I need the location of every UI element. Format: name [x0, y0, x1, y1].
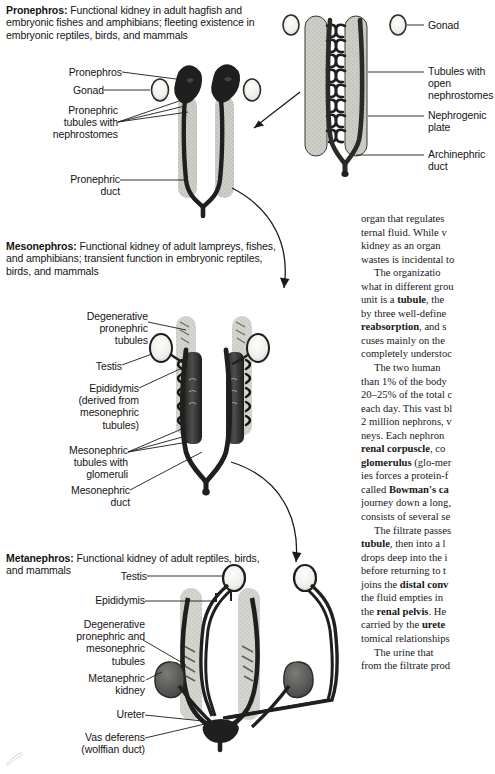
label-archinephric-duct: Archinephric duct [428, 148, 488, 172]
body-text-line: the fluid empties in [361, 591, 495, 605]
label-ureter: Ureter [95, 708, 145, 720]
body-text-lines: organ that regulatesternal fluid. While … [361, 212, 495, 673]
label-pronephric-tubules-with-nephrostomes: Pronephric tubules with nephrostomes [24, 104, 118, 141]
body-text-line: joins the distal conv [361, 578, 495, 592]
label-epididymis-metanephros: Epididymis [76, 594, 145, 606]
body-text-line: kidney as an organ [361, 239, 495, 253]
caption-mesonephros: Mesonephros: Functional kidney of adult … [6, 240, 278, 277]
body-text-column: organ that regulatesternal fluid. While … [361, 212, 495, 774]
body-text-line: 20–25% of the total c [361, 388, 495, 402]
label-detail-gonad: Gonad [428, 19, 486, 31]
body-text-line: The filtrate passes [361, 524, 495, 538]
caption-pronephros-lead: Pronephros: [6, 4, 67, 16]
body-text-line: before returning to t [361, 564, 495, 578]
body-text-line: what in different grou [361, 280, 495, 294]
figure-column: Pronephros: Functional kidney in adult h… [0, 0, 350, 774]
body-text-line: from the filtrate prod [361, 659, 495, 673]
body-text-line: The urine that [361, 646, 495, 660]
label-nephrogenic-plate: Nephrogenic plate [428, 109, 488, 133]
body-text-line: called Bowman's ca [361, 483, 495, 497]
label-degenerative-pronephric-and-mesonephric-tubules: Degenerative pronephric and mesonephric … [54, 618, 145, 667]
label-mesonephric-duct: Mesonephric duct [46, 484, 130, 508]
panel-metanephros-art [143, 565, 337, 750]
label-pronephric-duct: Pronephric duct [36, 173, 120, 197]
body-text-line: organ that regulates [361, 212, 495, 226]
body-text-line: tubule, then into a l [361, 537, 495, 551]
body-text-line: 2 million nephrons, v [361, 415, 495, 429]
label-testis-mesonephros: Testis [76, 360, 122, 372]
body-text-line: wastes is incidental to [361, 253, 495, 267]
label-mesonephric-tubules-with-glomeruli: Mesonephric tubules with glomeruli [44, 444, 128, 481]
body-text-line: ternal fluid. While v [361, 226, 495, 240]
body-text-line: cuses mainly on the [361, 334, 495, 348]
label-pronephros: Pronephros [40, 66, 122, 78]
body-text-line: reabsorption, and s [361, 320, 495, 334]
body-text-line: completely understoc [361, 347, 495, 361]
caption-metanephros-lead: Metanephros: [6, 552, 74, 564]
label-epididymis-mesonephros: Epididymis (derived from mesonephric tub… [50, 382, 139, 431]
body-text-line: The two human [361, 361, 495, 375]
body-text-line: neys. Each nephron [361, 429, 495, 443]
body-text-line: consists of several se [361, 510, 495, 524]
label-metanephric-kidney: Metanephric kidney [62, 672, 145, 696]
label-gonad: Gonad [40, 84, 104, 96]
body-text-line: journey down a long, [361, 496, 495, 510]
caption-pronephros: Pronephros: Functional kidney in adult h… [6, 4, 276, 41]
body-text-line: renal corpuscle, co [361, 442, 495, 456]
body-text-line: the renal pelvis. He [361, 605, 495, 619]
arrow-detail-to-pronephros [254, 92, 300, 128]
label-degenerative-pronephric-tubules: Degenerative pronephric tubules [62, 310, 148, 347]
body-text-line: drops deep into the i [361, 551, 495, 565]
body-text-line: tomical relationships [361, 632, 495, 646]
scan-artifact [4, 750, 26, 768]
panel-pronephros-art [104, 64, 261, 216]
body-text-line: unit is a tubule, the [361, 293, 495, 307]
label-tubules-with-open-nephrostomes: Tubules with open nephrostomes [428, 65, 488, 102]
body-text-line: ies forces a protein-f [361, 469, 495, 483]
body-text-line: The organizatio [361, 266, 495, 280]
caption-mesonephros-lead: Mesonephros: [6, 240, 77, 252]
label-testis-metanephros: Testis [100, 570, 147, 582]
panel-pronephros-detail-art [283, 15, 424, 177]
label-vas-deferens: Vas deferens (wolffian duct) [58, 731, 145, 755]
arrow-mesonephros-to-metanephros [231, 462, 302, 562]
body-text-line: each day. This vast bl [361, 402, 495, 416]
body-text-line: by three well-define [361, 307, 495, 321]
body-text-line: than 1% of the body [361, 375, 495, 389]
body-text-line: glomerulus (glo-mer [361, 456, 495, 470]
body-text-line: carried by the urete [361, 618, 495, 632]
